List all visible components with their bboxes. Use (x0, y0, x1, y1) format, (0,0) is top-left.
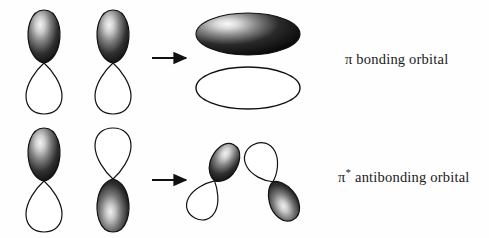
pi-antibonding-label: π* antibonding orbital (338, 169, 470, 186)
diagram-canvas (0, 0, 489, 238)
pi-bonding-orbital (196, 13, 300, 109)
pi-antibonding-orbital (182, 137, 308, 227)
orbital-diagram: π bonding orbital π* antibonding orbital (0, 0, 489, 238)
antibonding-lobe-right (239, 137, 307, 227)
p-orbital-right-bonding (95, 10, 131, 114)
pi-bonding-label: π bonding orbital (345, 51, 448, 68)
pi-symbol: π (338, 169, 346, 185)
p-orbital-right-antibonding-inverted (95, 128, 131, 232)
pi-bonding-label-text: bonding orbital (353, 51, 449, 67)
p-orbital-left-antibonding (26, 128, 62, 232)
pi-symbol: π (345, 51, 353, 67)
antibonding-lobe-left (182, 138, 247, 225)
pi-antibonding-label-text: antibonding orbital (351, 169, 469, 185)
p-orbital-left-bonding (26, 10, 62, 114)
